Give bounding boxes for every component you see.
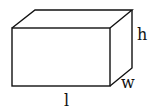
box-diagram: h w l <box>0 0 154 112</box>
front-face <box>12 28 110 86</box>
height-label: h <box>137 25 147 44</box>
length-label: l <box>64 91 69 110</box>
top-face <box>12 10 132 28</box>
width-label: w <box>121 73 135 92</box>
